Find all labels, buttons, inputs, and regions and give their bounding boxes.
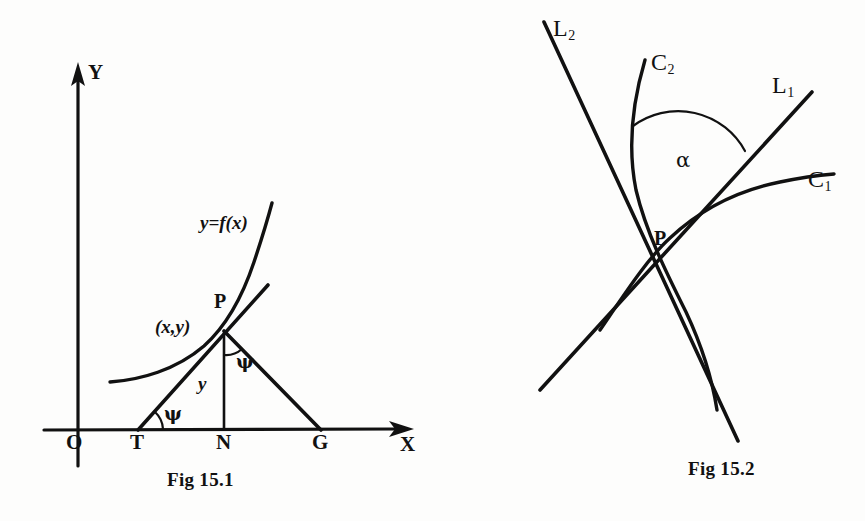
angle-arc-alpha: [633, 111, 745, 151]
figure-15-1: Y X O T N G P (x,y) y y=f(x) ψ ψ Fig 15.…: [0, 0, 440, 521]
angle-label-psi-at-P: ψ: [236, 352, 254, 371]
tangent-label-L1: L1: [772, 73, 794, 97]
curve-label-C2: C2: [651, 50, 674, 74]
curve-label-C1: C1: [808, 167, 831, 191]
point-label-N: N: [216, 432, 231, 453]
curve-equation-label: y=f(x): [200, 213, 248, 232]
figure-2-caption: Fig 15.2: [688, 459, 755, 478]
figure-1-caption: Fig 15.1: [167, 470, 234, 489]
figure-sheet: Y X O T N G P (x,y) y y=f(x) ψ ψ Fig 15.…: [0, 0, 865, 521]
figure-15-2-drawing: [440, 0, 865, 521]
point-label-P-fig2: P: [654, 228, 666, 248]
tangent-label-L2: L2: [553, 16, 575, 40]
angle-label-alpha: α: [676, 150, 690, 171]
point-label-G: G: [312, 432, 328, 453]
tangent-line-L1: [540, 92, 812, 390]
ordinate-label-y: y: [198, 374, 206, 393]
angle-label-psi-at-T: ψ: [164, 404, 182, 423]
x-axis-label: X: [400, 434, 415, 455]
figure-15-2: L2 C2 L1 C1 α P Fig 15.2: [440, 0, 865, 521]
point-label-T: T: [130, 432, 144, 453]
coordinates-label: (x,y): [155, 317, 190, 336]
y-axis-label: Y: [88, 62, 103, 83]
angle-arc-at-T: [155, 412, 163, 429]
origin-label: O: [66, 432, 82, 453]
point-label-P: P: [214, 291, 226, 311]
normal-line-PG: [224, 331, 321, 430]
